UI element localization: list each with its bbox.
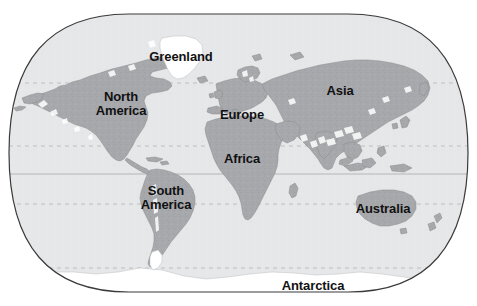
tasmania-island (400, 228, 407, 234)
world-map: Greenland North America Europe Asia Afri… (0, 0, 477, 306)
world-map-svg (0, 0, 477, 306)
ireland-island (209, 93, 214, 98)
hispaniola-island (160, 161, 169, 165)
korea-peninsula (392, 123, 398, 129)
